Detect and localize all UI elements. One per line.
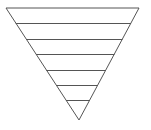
layer-divider-lines — [16, 24, 131, 101]
inverted-triangle-diagram — [0, 0, 151, 130]
triangle-outline — [6, 8, 139, 120]
